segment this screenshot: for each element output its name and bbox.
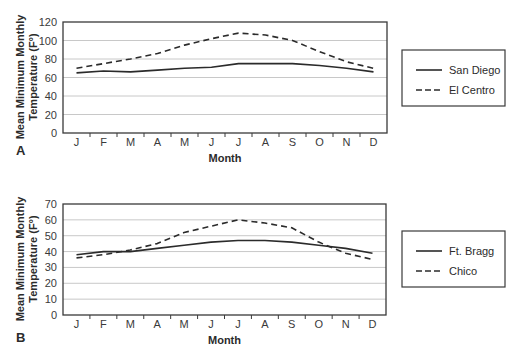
x-tick-label: J <box>74 136 80 148</box>
y-axis-title-line: Temperature (F°) <box>27 33 39 121</box>
legend-box <box>402 231 505 287</box>
x-tick-label: D <box>369 318 377 330</box>
series-line-san-diego <box>77 64 374 73</box>
x-tick-label: N <box>342 318 350 330</box>
y-tick-label: 60 <box>45 72 57 84</box>
legend-box <box>402 50 505 106</box>
panel-letter: B <box>16 330 25 345</box>
y-tick-label: 30 <box>45 261 57 273</box>
x-tick-label: M <box>126 318 135 330</box>
y-axis-title: Mean Minimum MonthlyTemperature (F°) <box>14 14 39 140</box>
figure: 020406080100120JFMAMJJASONDMonthMean Min… <box>0 0 522 362</box>
x-tick-label: J <box>74 318 80 330</box>
y-tick-label: 60 <box>45 214 57 226</box>
y-tick-label: 80 <box>45 53 57 65</box>
y-tick-label: 0 <box>51 309 57 321</box>
legend: San DiegoEl Centro <box>402 50 505 106</box>
y-tick-label: 0 <box>51 127 57 139</box>
x-tick-label: J <box>236 136 242 148</box>
x-tick-label: M <box>126 136 135 148</box>
x-tick-label: J <box>209 136 215 148</box>
x-tick-label: M <box>180 136 189 148</box>
x-tick-label: N <box>343 136 351 148</box>
x-tick-label: O <box>314 318 323 330</box>
chart-panel-a: 020406080100120JFMAMJJASONDMonthMean Min… <box>14 14 505 164</box>
legend-label: El Centro <box>449 84 495 96</box>
series-line-ft-bragg <box>77 241 373 255</box>
x-tick-label: J <box>208 318 214 330</box>
y-tick-label: 120 <box>39 16 57 28</box>
y-axis-title-line: Mean Minimum Monthly <box>14 196 26 322</box>
x-tick-label: A <box>261 318 269 330</box>
x-tick-label: F <box>100 136 107 148</box>
y-axis-title: Mean Minimum MonthlyTemperature (F°) <box>14 196 39 322</box>
x-tick-label: A <box>262 136 270 148</box>
x-tick-label: S <box>289 136 296 148</box>
y-tick-label: 40 <box>45 246 57 258</box>
y-tick-label: 10 <box>45 293 57 305</box>
chart-panel-b: 010203040506070JFMAMJJASONDMonthMean Min… <box>14 196 505 346</box>
y-axis-title-line: Mean Minimum Monthly <box>14 14 26 140</box>
legend-label: San Diego <box>449 64 500 76</box>
series-line-el-centro <box>77 33 374 68</box>
y-tick-label: 20 <box>45 109 57 121</box>
y-tick-label: 20 <box>45 277 57 289</box>
x-tick-label: M <box>180 318 189 330</box>
y-axis-title-line: Temperature (F°) <box>27 215 39 303</box>
y-tick-label: 70 <box>45 198 57 210</box>
legend-label: Chico <box>449 265 477 277</box>
x-tick-label: O <box>315 136 324 148</box>
legend-label: Ft. Bragg <box>449 245 494 257</box>
y-tick-label: 50 <box>45 230 57 242</box>
legend: Ft. BraggChico <box>402 231 505 287</box>
plot-frame <box>63 204 386 315</box>
x-tick-label: J <box>235 318 241 330</box>
x-tick-label: A <box>154 136 162 148</box>
x-axis-title: Month <box>208 334 241 346</box>
y-tick-label: 100 <box>39 35 57 47</box>
series-line-chico <box>77 220 373 260</box>
y-tick-label: 40 <box>45 90 57 102</box>
x-axis-title: Month <box>209 152 242 164</box>
panel-letter: A <box>16 143 26 158</box>
x-tick-label: F <box>100 318 107 330</box>
x-tick-label: A <box>154 318 162 330</box>
x-tick-label: S <box>288 318 295 330</box>
x-tick-label: D <box>370 136 378 148</box>
